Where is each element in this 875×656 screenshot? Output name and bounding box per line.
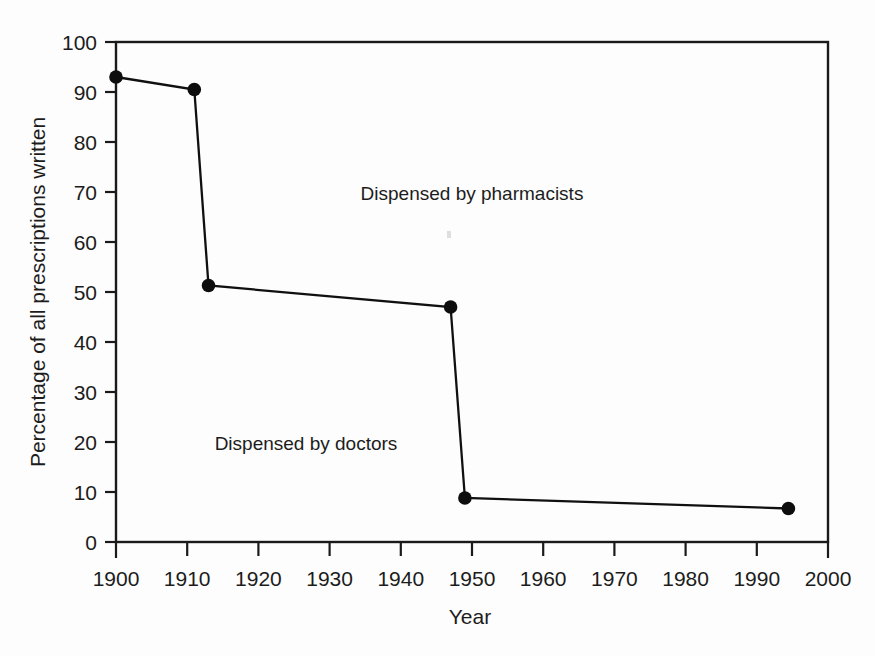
y-tick-label: 90 xyxy=(74,81,97,104)
y-tick-label: 60 xyxy=(74,231,97,254)
series-markers xyxy=(109,70,795,515)
y-tick-label: 40 xyxy=(74,331,97,354)
y-tick-label: 10 xyxy=(74,481,97,504)
x-tick-label: 1910 xyxy=(164,567,211,590)
y-tick-label: 20 xyxy=(74,431,97,454)
x-tick-label: 1940 xyxy=(377,567,424,590)
y-tick-label: 70 xyxy=(74,181,97,204)
data-point xyxy=(109,70,123,84)
y-axis-tick-labels: 100 90 80 70 60 50 40 30 20 10 0 xyxy=(62,31,97,554)
data-point xyxy=(202,279,216,293)
data-point xyxy=(782,502,796,516)
chart-page: 100 90 80 70 60 50 40 30 20 10 0 xyxy=(0,0,875,656)
plot-frame xyxy=(116,42,828,542)
x-tick-label: 2000 xyxy=(805,567,852,590)
x-tick-label: 1900 xyxy=(93,567,140,590)
y-axis-title: Percentage of all prescriptions written xyxy=(26,117,49,467)
data-point xyxy=(188,83,202,97)
x-axis-tick-labels: 1900 1910 1920 1930 1940 1950 1960 1970 … xyxy=(93,567,852,590)
y-tick-label: 100 xyxy=(62,31,97,54)
line-chart: 100 90 80 70 60 50 40 30 20 10 0 xyxy=(0,0,875,656)
x-tick-label: 1980 xyxy=(662,567,709,590)
x-tick-label: 1950 xyxy=(449,567,496,590)
x-axis-title: Year xyxy=(449,605,491,628)
x-axis-ticks xyxy=(116,542,828,558)
y-tick-label: 50 xyxy=(74,281,97,304)
x-tick-label: 1960 xyxy=(520,567,567,590)
y-tick-label: 80 xyxy=(74,131,97,154)
y-tick-label: 30 xyxy=(74,381,97,404)
data-point xyxy=(458,491,472,505)
data-point xyxy=(444,300,458,314)
x-tick-label: 1990 xyxy=(733,567,780,590)
annotation-pharmacists: Dispensed by pharmacists xyxy=(361,183,584,204)
x-tick-label: 1970 xyxy=(591,567,638,590)
y-tick-label: 0 xyxy=(85,531,97,554)
y-axis-ticks xyxy=(105,42,116,542)
scan-speck xyxy=(447,231,451,238)
annotation-doctors: Dispensed by doctors xyxy=(215,433,398,454)
x-tick-label: 1930 xyxy=(306,567,353,590)
x-tick-label: 1920 xyxy=(235,567,282,590)
